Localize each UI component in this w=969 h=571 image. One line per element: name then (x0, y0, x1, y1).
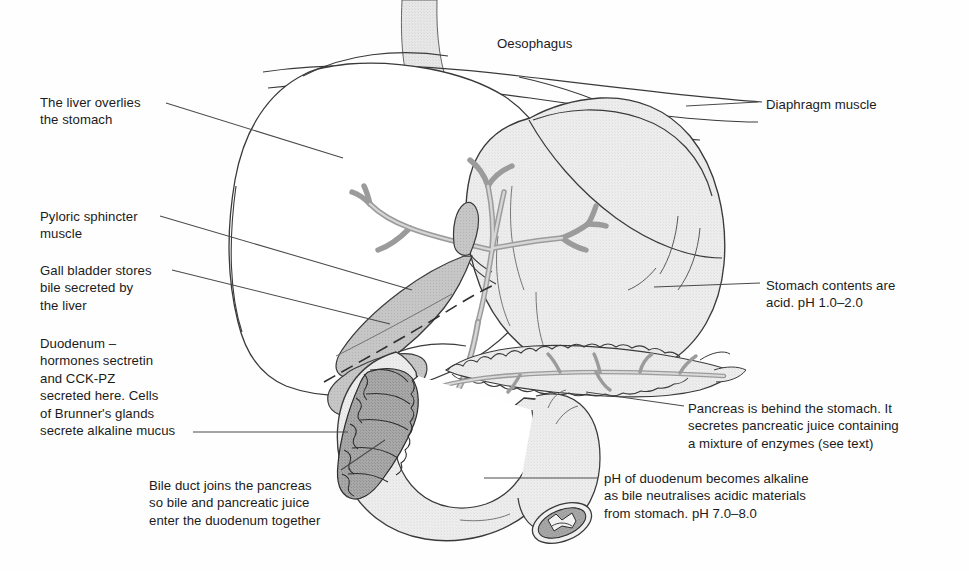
label-pyloric-sphincter-muscle: Pyloric sphincter muscle (40, 208, 210, 243)
label-bile-duct-joins-pancreas: Bile duct joins the pancreas so bile and… (149, 477, 409, 529)
label-liver-overlies-stomach: The liver overlies the stomach (40, 94, 210, 129)
label-gall-bladder: Gall bladder stores bile secreted by the… (40, 262, 220, 314)
label-stomach-contents-acid: Stomach contents are acid. pH 1.0–2.0 (766, 277, 966, 312)
label-diaphragm-muscle: Diaphragm muscle (766, 96, 956, 113)
leader-diaphragm (686, 102, 758, 106)
anatomy-diagram: The liver overlies the stomach Oesophagu… (0, 0, 969, 571)
label-duodenum-hormones: Duodenum – hormones sectretin and CCK-PZ… (40, 335, 240, 439)
label-oesophagus: Oesophagus (497, 35, 657, 52)
label-ph-of-duodenum: pH of duodenum becomes alkaline as bile … (604, 470, 894, 522)
label-pancreas-behind-stomach: Pancreas is behind the stomach. It secre… (688, 400, 958, 452)
